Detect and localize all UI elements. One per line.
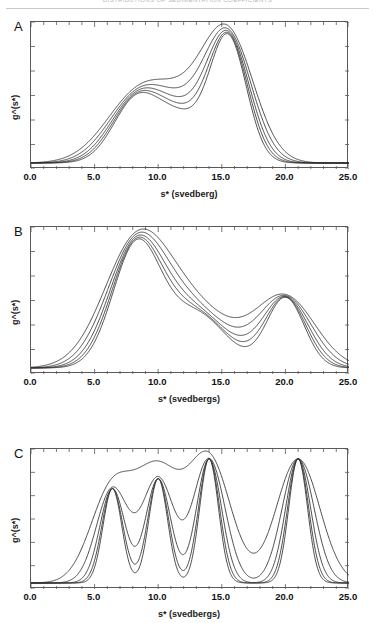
plot-svg-b [31, 227, 349, 374]
xtick-label-c-0: 0.0 [23, 591, 36, 602]
xtick-label-a-0: 0.0 [23, 171, 36, 182]
curve-a-2 [31, 28, 349, 163]
xtick-label-c-1: 5.0 [87, 591, 100, 602]
header-divider [6, 8, 369, 9]
xtick-label-c-4: 20.0 [275, 591, 294, 602]
xtick-label-a-5: 25.0 [339, 171, 358, 182]
xtick-label-b-3: 15.0 [212, 376, 231, 387]
figure-root: DISTRIBUTIONS OF SEDIMENTATION COEFFICIE… [0, 0, 375, 623]
xtick-label-c-3: 15.0 [212, 591, 231, 602]
header-title: DISTRIBUTIONS OF SEDIMENTATION COEFFICIE… [103, 0, 272, 3]
panel-letter-c: C [14, 446, 23, 461]
page-header: DISTRIBUTIONS OF SEDIMENTATION COEFFICIE… [0, 0, 375, 9]
plot-area-b [30, 226, 348, 373]
curve-a-1 [31, 24, 349, 163]
xtick-label-a-3: 15.0 [212, 171, 231, 182]
panel-letter-a: A [14, 19, 23, 34]
curve-b-4 [31, 237, 349, 368]
axis-ticks-a [31, 22, 349, 169]
yaxis-label-c: g^(s*) [10, 518, 20, 543]
yaxis-label-b: g^(s*) [10, 300, 20, 325]
curve-a-5 [31, 34, 349, 163]
curve-b-3 [31, 235, 349, 368]
yaxis-label-a: g^(s*) [10, 95, 20, 120]
xtick-label-b-5: 25.0 [339, 376, 358, 387]
xtick-label-c-2: 10.0 [148, 591, 167, 602]
curve-a-4 [31, 32, 349, 163]
curve-c-1 [31, 451, 349, 583]
curve-c-2 [31, 458, 349, 583]
plot-area-c [30, 448, 348, 588]
curve-b-1 [31, 229, 349, 367]
plot-svg-a [31, 22, 349, 169]
xtick-label-b-2: 10.0 [148, 376, 167, 387]
xtick-label-a-4: 20.0 [275, 171, 294, 182]
curve-c-3 [31, 459, 349, 583]
plot-svg-c [31, 449, 349, 589]
axis-ticks-b [31, 227, 349, 374]
curve-a-3 [31, 30, 349, 163]
curve-c-4 [31, 459, 349, 583]
curve-c-5 [31, 459, 349, 583]
xaxis-label-c: s* (svedbergs) [30, 609, 348, 619]
xtick-label-b-0: 0.0 [23, 376, 36, 387]
plot-area-a [30, 21, 348, 168]
xaxis-label-a: s* (svedberg) [30, 189, 348, 199]
xtick-label-b-1: 5.0 [87, 376, 100, 387]
curve-b-2 [31, 232, 349, 368]
xtick-label-c-5: 25.0 [339, 591, 358, 602]
xtick-label-b-4: 20.0 [275, 376, 294, 387]
xaxis-label-b: s* (svedbergs) [30, 394, 348, 404]
xtick-label-a-1: 5.0 [87, 171, 100, 182]
xtick-label-a-2: 10.0 [148, 171, 167, 182]
panel-letter-b: B [14, 224, 23, 239]
